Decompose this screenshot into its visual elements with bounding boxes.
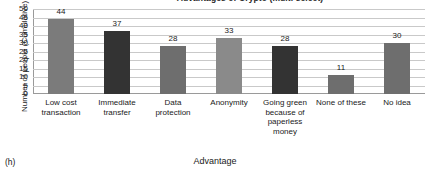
x-axis-category-label: Low costtransaction	[33, 98, 89, 117]
y-axis-tick-label: 40	[0, 22, 28, 30]
x-axis-label-line: transaction	[41, 108, 80, 117]
x-axis-category-label: Immediatetransfer	[89, 98, 145, 117]
y-axis-tick-label: 30	[0, 39, 28, 47]
x-axis-category-label: Going greenbecause ofpaperlessmoney	[257, 98, 313, 136]
y-axis-tick-label: 20	[0, 56, 28, 64]
panel-tag: (h)	[5, 157, 15, 167]
gridline	[33, 18, 425, 19]
bar	[328, 75, 354, 94]
x-axis-label-line: No idea	[383, 98, 411, 107]
y-axis-tick-label: 50	[0, 5, 28, 13]
y-axis-tick-label: 10	[0, 73, 28, 81]
x-axis-label-line: Immediate	[98, 98, 135, 107]
bar-value-label: 28	[265, 35, 305, 43]
gridline	[33, 9, 425, 10]
x-axis-label-line: Going green	[263, 98, 307, 107]
bar-value-label: 33	[209, 27, 249, 35]
plot-area	[33, 9, 425, 94]
bar	[216, 38, 242, 94]
x-axis-label-line: protection	[155, 108, 190, 117]
bar	[272, 46, 298, 94]
x-axis-label-line: Data	[165, 98, 182, 107]
y-axis-tick-label: 0	[0, 90, 28, 98]
x-axis-label-line: paperless	[268, 117, 303, 126]
bar-value-label: 30	[377, 32, 417, 40]
x-axis-category-label: No idea	[369, 98, 425, 108]
bar-value-label: 28	[153, 35, 193, 43]
x-axis-label-line: Anonymity	[210, 98, 247, 107]
x-axis-category-label: Dataprotection	[145, 98, 201, 117]
bar-chart-figure: Advantages of Crypto (multi select) Numb…	[0, 0, 430, 176]
x-axis-category-label: Anonymity	[201, 98, 257, 108]
bar	[104, 31, 130, 94]
x-axis-label-line: Low cost	[45, 98, 77, 107]
bar	[48, 19, 74, 94]
x-axis-label-line: because of	[265, 108, 304, 117]
x-axis-category-label: None of these	[313, 98, 369, 108]
x-axis-label-line: money	[273, 127, 297, 136]
x-axis-label-line: transfer	[103, 108, 130, 117]
x-axis-label-line: None of these	[316, 98, 366, 107]
bar-value-label: 37	[97, 20, 137, 28]
x-axis-title: Advantage	[0, 156, 430, 166]
chart-title: Advantages of Crypto (multi select)	[120, 0, 380, 3]
bar-value-label: 44	[41, 8, 81, 16]
bar	[384, 43, 410, 94]
bar-value-label: 11	[321, 64, 361, 72]
bar	[160, 46, 186, 94]
